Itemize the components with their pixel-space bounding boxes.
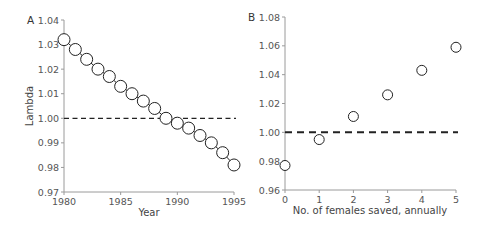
panel-b-data-point	[280, 160, 290, 170]
panel-a-data-point	[115, 80, 127, 92]
panel-b-y-tick-label: 1.02	[259, 98, 280, 109]
panel-a-data-point	[81, 53, 93, 65]
panel-b-label: B	[248, 11, 255, 23]
panel-a-data-point	[194, 129, 206, 141]
panel-b-data-point	[314, 135, 324, 145]
panel-b-x-tick-label: 0	[282, 194, 288, 205]
panel-a-data-point	[58, 34, 70, 46]
panel-b: B 0.960.981.001.021.041.061.08 012345 No…	[248, 11, 461, 216]
panel-b-y-tick-label: 1.08	[259, 12, 280, 23]
panel-a-data-points	[58, 34, 240, 171]
panel-b-x-tick-label: 1	[316, 194, 322, 205]
panel-a-data-point	[183, 122, 195, 134]
panel-a: A 0.970.980.991.001.011.021.031.04 19801…	[24, 14, 246, 218]
panel-b-data-point	[348, 111, 358, 121]
panel-b-data-points	[280, 42, 461, 170]
panel-a-y-tick-label: 1.00	[38, 113, 59, 124]
panel-a-data-point	[137, 95, 149, 107]
panel-a-y-tick-label: 1.02	[38, 64, 59, 75]
panel-a-x-tick-label: 1990	[165, 196, 189, 207]
panel-a-data-point	[217, 147, 229, 159]
panel-a-data-point	[228, 159, 240, 171]
panel-a-x-tick-label: 1980	[52, 196, 76, 207]
panel-b-y-tick-label: 1.00	[259, 127, 280, 138]
panel-a-x-axis: 1980198519901995	[52, 192, 246, 207]
panel-a-data-point	[205, 137, 217, 149]
panel-a-data-point	[171, 117, 183, 129]
panel-b-y-tick-label: 0.98	[259, 156, 280, 167]
figure: A 0.970.980.991.001.011.021.031.04 19801…	[0, 0, 482, 231]
panel-a-data-point	[126, 88, 138, 100]
panel-b-y-tick-label: 1.04	[259, 69, 280, 80]
panel-b-data-point	[417, 65, 427, 75]
panel-b-x-tick-label: 5	[453, 194, 459, 205]
panel-b-x-axis-label: No. of females saved, annually	[293, 205, 447, 216]
panel-b-x-tick-label: 3	[385, 194, 391, 205]
panel-b-data-point	[451, 42, 461, 52]
panel-a-x-tick-label: 1995	[222, 196, 246, 207]
panel-a-data-point	[103, 71, 115, 83]
panel-a-y-tick-label: 0.99	[38, 137, 59, 148]
panel-a-x-tick-label: 1985	[109, 196, 133, 207]
panel-a-x-axis-label: Year	[137, 207, 160, 218]
panel-a-y-tick-label: 1.01	[38, 88, 59, 99]
panel-a-y-tick-label: 0.98	[38, 162, 59, 173]
panel-b-y-tick-label: 0.96	[259, 185, 280, 196]
panel-b-y-tick-label: 1.06	[259, 40, 280, 51]
panel-b-data-point	[383, 90, 393, 100]
panel-a-data-point	[160, 112, 172, 124]
panel-b-x-tick-label: 4	[419, 194, 425, 205]
panel-a-data-point	[69, 43, 81, 55]
panel-b-x-tick-label: 2	[350, 194, 356, 205]
panel-a-label: A	[27, 14, 35, 26]
panel-a-y-tick-label: 1.04	[38, 15, 59, 26]
panel-a-data-point	[92, 63, 104, 75]
panel-a-y-axis-label: Lambda	[24, 86, 35, 126]
panel-a-data-point	[149, 102, 161, 114]
panel-a-y-tick-label: 1.03	[38, 39, 59, 50]
panel-b-x-axis: 012345	[282, 190, 459, 205]
